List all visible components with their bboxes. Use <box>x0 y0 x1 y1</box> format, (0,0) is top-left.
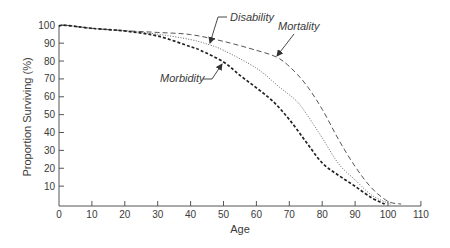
x-tick-label: 50 <box>218 209 230 220</box>
y-tick-label: 40 <box>44 127 56 138</box>
y-tick-label: 60 <box>44 91 56 102</box>
y-tick-label: 50 <box>44 109 56 120</box>
survival-curves-chart: 102030405060708090100 010203040506070809… <box>0 0 450 248</box>
x-tick-label: 40 <box>185 209 197 220</box>
x-tick-label: 100 <box>380 209 397 220</box>
axes <box>59 25 421 206</box>
annotation-arrow-icon <box>203 64 222 79</box>
y-axis-ticks: 102030405060708090100 <box>38 20 64 192</box>
x-tick-label: 10 <box>86 209 98 220</box>
x-tick-label: 60 <box>251 209 263 220</box>
x-tick-label: 90 <box>350 209 362 220</box>
annotations: DisabilityMortalityMorbidity <box>160 11 321 84</box>
x-tick-label: 110 <box>413 209 429 220</box>
annotation-label-mortality: Mortality <box>278 20 321 32</box>
y-tick-label: 10 <box>44 181 56 192</box>
y-tick-label: 70 <box>44 73 56 84</box>
x-tick-label: 80 <box>317 209 329 220</box>
x-axis-title: Age <box>230 223 250 235</box>
x-tick-label: 70 <box>284 209 296 220</box>
x-tick-label: 20 <box>119 209 131 220</box>
x-axis-ticks: 0102030405060708090100110 <box>56 201 429 220</box>
y-tick-label: 100 <box>38 20 55 31</box>
series-line-mortality <box>59 25 401 204</box>
annotation-label-morbidity: Morbidity <box>160 72 206 84</box>
y-tick-label: 30 <box>44 145 56 156</box>
data-series <box>59 25 401 204</box>
annotation-label-disability: Disability <box>230 11 276 23</box>
y-tick-label: 80 <box>44 56 56 67</box>
annotation-arrow-icon <box>277 34 294 56</box>
x-tick-label: 0 <box>56 209 62 220</box>
y-tick-label: 90 <box>44 38 56 49</box>
y-axis-title: Proportion Surviving (%) <box>21 57 33 176</box>
series-line-morbidity <box>59 25 385 204</box>
x-tick-label: 30 <box>152 209 164 220</box>
y-tick-label: 20 <box>44 163 56 174</box>
